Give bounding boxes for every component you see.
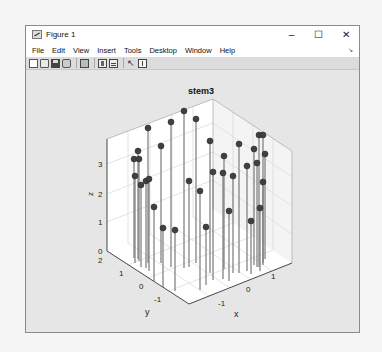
- figure-canvas[interactable]: 0 1 2 3 z 2 1 0 -1 y -1 0 1 x stem3: [26, 70, 359, 332]
- svg-text:0: 0: [246, 285, 251, 294]
- svg-text:0: 0: [98, 247, 103, 256]
- svg-text:1: 1: [271, 272, 276, 281]
- figure-window: Figure 1 – ☐ ✕ File Edit View Insert Too…: [25, 25, 360, 333]
- svg-text:3: 3: [98, 160, 103, 169]
- plot-title: stem3: [188, 86, 214, 96]
- svg-text:-1: -1: [218, 299, 226, 308]
- stem3-plot[interactable]: 0 1 2 3 z 2 1 0 -1 y -1 0 1 x stem3: [1, 1, 382, 352]
- svg-text:1: 1: [119, 269, 124, 278]
- svg-text:1: 1: [98, 218, 103, 227]
- svg-text:2: 2: [98, 190, 103, 199]
- z-axis-label: z: [86, 192, 95, 196]
- z-tick-labels: 0 1 2 3: [98, 160, 103, 256]
- svg-text:0: 0: [139, 282, 144, 291]
- y-axis-label: y: [145, 307, 150, 317]
- svg-text:-1: -1: [154, 295, 162, 304]
- svg-text:2: 2: [98, 256, 103, 265]
- x-axis-label: x: [234, 309, 239, 319]
